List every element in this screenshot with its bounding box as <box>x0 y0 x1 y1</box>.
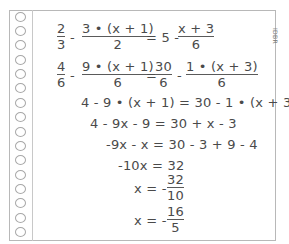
equation-step-5: -9x - x = 30 - 3 + 9 - 4 <box>106 138 258 151</box>
hole-icon <box>15 170 26 180</box>
fraction: 2 3 <box>57 22 65 51</box>
fraction: 4 6 <box>57 60 65 89</box>
hole-icon <box>15 69 26 79</box>
hole-icon <box>15 40 26 50</box>
fraction: 30 6 <box>155 60 172 89</box>
hole-icon <box>15 184 26 194</box>
fraction: 32 10 <box>167 173 184 202</box>
hole-icon <box>15 83 26 93</box>
fraction: 16 5 <box>167 205 184 234</box>
hole-icon <box>15 213 26 223</box>
hole-icon <box>15 26 26 36</box>
fraction: 1 • (x + 3) 6 <box>186 60 258 89</box>
image-credit: IDBR <box>272 28 279 44</box>
hole-icon <box>15 112 26 122</box>
operator: - <box>70 31 75 44</box>
hole-icon <box>15 155 26 165</box>
hole-icon <box>15 12 26 22</box>
fraction: 3 • (x + 1) 2 <box>82 22 154 51</box>
equation-step-3: 4 - 9 • (x + 1) = 30 - 1 • (x + 3) <box>81 96 289 109</box>
hole-icon <box>15 141 26 151</box>
operator: - <box>70 69 75 82</box>
hole-icon <box>15 127 26 137</box>
hole-icon <box>15 198 26 208</box>
margin-line <box>32 10 33 241</box>
hole-icon <box>15 227 26 237</box>
fraction: x + 3 6 <box>178 22 214 51</box>
equation-step-4: 4 - 9x - 9 = 30 + x - 3 <box>90 117 237 130</box>
equation-step-6: -10x = 32 <box>118 159 184 172</box>
hole-icon <box>15 55 26 65</box>
equals-expression: = 5 - <box>146 31 179 44</box>
hole-icon <box>15 98 26 108</box>
operator: - <box>177 69 182 82</box>
fraction: 9 • (x + 1) 6 <box>82 60 154 89</box>
